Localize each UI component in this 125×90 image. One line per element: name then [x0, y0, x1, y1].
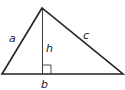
label-a: a [9, 32, 16, 45]
right-angle-marker [43, 65, 51, 74]
label-b: b [41, 78, 48, 90]
triangle-diagram: a h c b [0, 0, 125, 90]
label-c: c [83, 29, 89, 42]
triangle [2, 8, 123, 74]
label-h: h [46, 42, 53, 55]
